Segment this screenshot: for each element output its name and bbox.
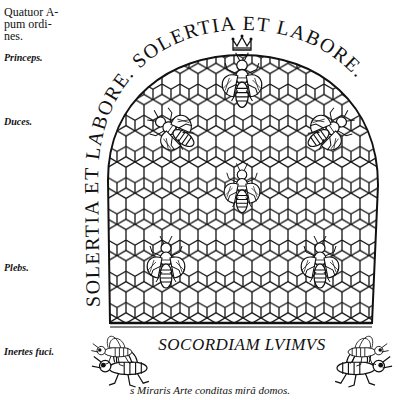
- crown-icon: [232, 35, 253, 51]
- drone-right-icon: [335, 336, 392, 387]
- beehive-engraving: SOLERTIA ET LABORE. SOLERTIA ET LABORE. …: [0, 0, 403, 400]
- verse-caption: s Miraris Arte conditas mirâ domos.: [130, 384, 290, 396]
- drone-left-icon: [91, 336, 148, 387]
- banner-motto: SOCORDIAM LVIMVS: [158, 335, 325, 354]
